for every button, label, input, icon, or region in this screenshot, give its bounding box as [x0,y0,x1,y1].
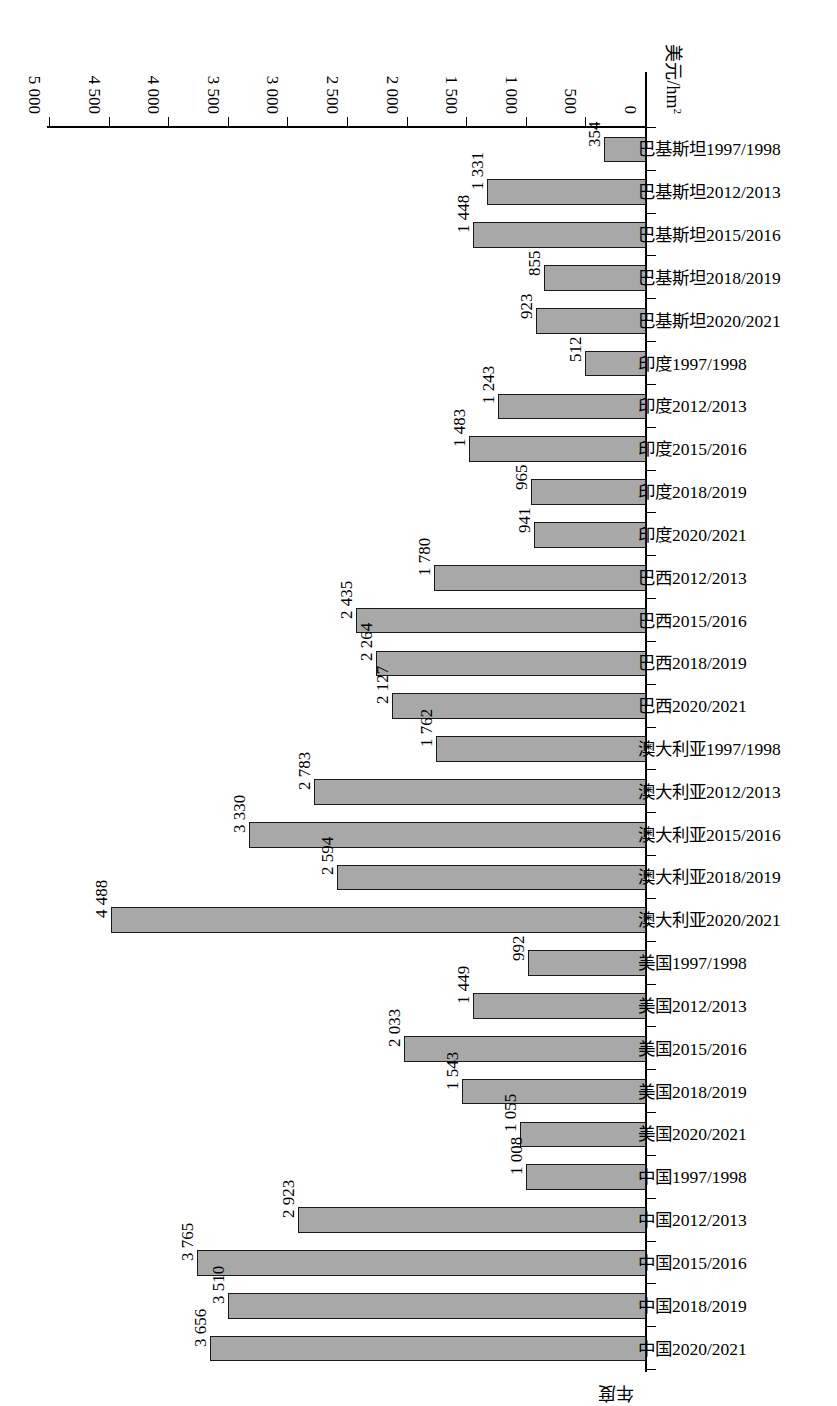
bar [544,265,646,291]
bar [228,1293,646,1319]
category-tick [647,1155,656,1156]
category-axis-title: 年度 [598,1384,634,1402]
value-label: 2 033 [386,1009,403,1047]
value-tick-label: 2 000 [384,76,401,114]
category-tick [647,341,656,342]
category-tick [647,684,656,685]
category-label: 美国1997/1998 [638,954,747,972]
value-label: 1 780 [416,537,433,575]
category-tick [647,941,656,942]
category-tick [647,213,656,214]
value-label: 1 483 [451,409,468,447]
category-label: 澳大利亚2015/2016 [638,826,781,844]
category-label: 巴基斯坦2012/2013 [638,183,781,201]
value-label: 1 448 [455,195,472,233]
category-tick [647,1112,656,1113]
value-label: 2 435 [338,580,355,618]
value-label: 3 765 [179,1223,196,1261]
bar [197,1250,646,1276]
category-tick [647,727,656,728]
bar [536,308,646,334]
category-label: 中国2020/2021 [638,1340,747,1358]
value-tick-label: 1 500 [443,76,460,114]
bar [111,907,646,933]
bar [528,950,646,976]
value-label: 512 [567,336,584,362]
value-tick [109,117,110,126]
category-label: 澳大利亚2020/2021 [638,911,781,929]
value-axis-title: 美元/hm2 [664,44,687,114]
bar [376,651,646,677]
bar [210,1336,646,1362]
category-tick [647,1283,656,1284]
bar [462,1079,646,1105]
value-axis-line [47,126,647,128]
value-label: 992 [510,936,527,962]
value-label: 3 656 [192,1308,209,1346]
category-tick [647,1198,656,1199]
category-tick [647,470,656,471]
category-label: 巴基斯坦1997/1998 [638,140,781,158]
category-label: 印度2015/2016 [638,440,747,458]
value-tick-label: 4 500 [86,76,103,114]
category-label: 巴基斯坦2015/2016 [638,226,781,244]
bar [434,565,646,591]
value-label: 1 331 [469,152,486,190]
value-tick-label: 1 000 [503,76,520,114]
bar [487,179,646,205]
category-label: 巴基斯坦2018/2019 [638,269,781,287]
category-label: 美国2018/2019 [638,1083,747,1101]
value-label: 2 127 [374,666,391,704]
value-label: 2 594 [319,837,336,875]
value-label: 354 [586,122,603,148]
value-label: 2 264 [358,623,375,661]
bar [520,1122,646,1148]
category-tick [647,812,656,813]
value-label: 1 543 [444,1051,461,1089]
value-label: 3 510 [210,1266,227,1304]
value-label: 1 762 [418,709,435,747]
category-label: 美国2012/2013 [638,997,747,1015]
value-tick-label: 3 500 [205,76,222,114]
value-tick [645,117,646,126]
value-label: 4 488 [93,880,110,918]
category-label: 澳大利亚2012/2013 [638,783,781,801]
category-label: 巴西2018/2019 [638,654,747,672]
bar [526,1164,646,1190]
category-label: 巴基斯坦2020/2021 [638,312,781,330]
category-tick [647,255,656,256]
category-tick [647,1069,656,1070]
category-label: 中国1997/1998 [638,1168,747,1186]
value-label: 941 [516,507,533,533]
value-label: 2 783 [296,752,313,790]
category-tick [647,1369,656,1370]
category-tick [647,170,656,171]
value-label: 1 055 [502,1094,519,1132]
category-label: 印度2012/2013 [638,397,747,415]
value-tick [347,117,348,126]
value-label: 923 [518,293,535,319]
value-tick [466,117,467,126]
bar [436,736,646,762]
category-label: 美国2015/2016 [638,1040,747,1058]
category-tick [647,1326,656,1327]
value-tick-label: 500 [562,89,579,115]
category-tick [647,1026,656,1027]
value-tick [49,117,50,126]
category-label: 印度2020/2021 [638,526,747,544]
category-label: 美国2020/2021 [638,1125,747,1143]
bar [473,222,646,248]
category-tick [647,384,656,385]
value-tick-label: 4 000 [145,76,162,114]
bar-chart: 年度 美元/hm2 05001 0001 5002 0002 5003 0003… [0,0,837,1406]
category-label: 澳大利亚1997/1998 [638,740,781,758]
value-tick-label: 3 000 [264,76,281,114]
value-tick [287,117,288,126]
rotated-chart-stage: 年度 美元/hm2 05001 0001 5002 0002 5003 0003… [0,0,837,1406]
bar [314,779,646,805]
category-label: 印度2018/2019 [638,483,747,501]
category-label: 中国2015/2016 [638,1254,747,1272]
category-tick [647,512,656,513]
value-label: 1 008 [508,1137,525,1175]
bar [531,479,646,505]
